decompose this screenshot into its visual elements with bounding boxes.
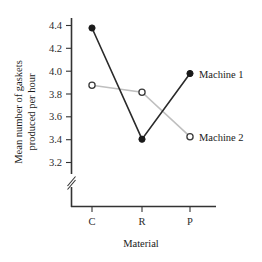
data-point-machine-2-R — [139, 89, 145, 95]
x-tick-label-R: R — [138, 216, 145, 227]
y-axis-title-line2: produced per hour — [26, 73, 37, 150]
y-tick-label-4.0: 4.0 — [49, 66, 62, 77]
legend-label-machine-2: Machine 2 — [199, 132, 244, 143]
x-tick-label-P: P — [187, 216, 193, 227]
data-point-machine-2-C — [89, 82, 95, 88]
y-axis-ticks — [66, 26, 72, 163]
y-tick-label-4.4: 4.4 — [49, 20, 63, 31]
x-axis-title: Material — [123, 238, 159, 249]
y-tick-label-3.6: 3.6 — [49, 111, 62, 122]
y-axis-title-line1: Mean number of gaskets — [13, 60, 24, 164]
x-tick-label-C: C — [88, 216, 95, 227]
y-tick-label-4.2: 4.2 — [49, 43, 62, 54]
data-point-machine-1-P — [187, 70, 193, 76]
x-axis-ticks — [92, 207, 190, 213]
legend-label-machine-1: Machine 1 — [199, 69, 244, 80]
data-point-machine-1-R — [139, 136, 145, 142]
line-chart: 4.4 4.2 4.0 3.8 3.6 3.4 3.2 C R P Materi… — [0, 0, 262, 262]
y-tick-label-3.4: 3.4 — [49, 134, 63, 145]
chart-figure: 4.4 4.2 4.0 3.8 3.6 3.4 3.2 C R P Materi… — [0, 0, 262, 262]
y-tick-label-3.8: 3.8 — [49, 89, 62, 100]
data-point-machine-2-P — [187, 134, 193, 140]
data-point-machine-1-C — [89, 25, 95, 31]
y-tick-label-3.2: 3.2 — [49, 157, 62, 168]
